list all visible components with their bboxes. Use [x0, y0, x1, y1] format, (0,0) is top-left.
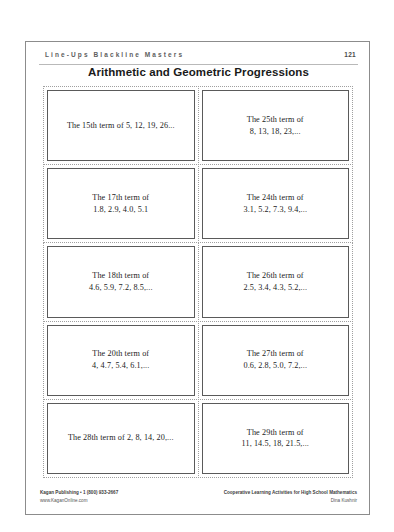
card-line-2: 2.5, 3.4, 4.3, 5.2,...	[243, 283, 307, 292]
card-text: The 18th term of 4.6, 5.9, 7.2, 8.5,...	[83, 270, 159, 294]
card-line-1: The 25th term of	[247, 115, 304, 124]
card-text: The 26th term of 2.5, 3.4, 4.3, 5.2,...	[237, 270, 313, 294]
cut-cell: The 20th term of 4, 4.7, 5.4, 6.1,...	[43, 321, 199, 400]
card-line-2: 4.6, 5.9, 7.2, 8.5,...	[89, 283, 153, 292]
card-line-2: 3.1, 5.2, 7.3, 9.4,...	[243, 205, 307, 214]
cut-cell: The 27th term of 0.6, 2.8, 5.0, 7.2,...	[198, 321, 354, 400]
card-line-1: The 28th term of 2, 8, 14, 20,...	[68, 433, 174, 442]
footer-publisher: Kagan Publishing • 1 (800) 933-2667	[40, 489, 118, 497]
cut-cell: The 15th term of 5, 12, 19, 26...	[43, 86, 199, 165]
progression-card: The 24th term of 3.1, 5.2, 7.3, 9.4,...	[202, 168, 350, 239]
card-grid: The 15th term of 5, 12, 19, 26... The 25…	[44, 87, 353, 478]
progression-card: The 20th term of 4, 4.7, 5.4, 6.1,...	[47, 325, 195, 396]
progression-card: The 25th term of 8, 13, 18, 23,...	[202, 90, 350, 161]
card-line-2: 11, 14.5, 18, 21.5,...	[242, 439, 309, 448]
page-title: Arithmetic and Geometric Progressions	[26, 66, 371, 78]
card-line-1: The 15th term of 5, 12, 19, 26...	[67, 121, 175, 130]
card-line-1: The 17th term of	[92, 193, 149, 202]
cut-cell: The 26th term of 2.5, 3.4, 4.3, 5.2,...	[198, 242, 354, 321]
scanned-worksheet-page: Line-Ups Blackline Masters 121 Arithmeti…	[0, 0, 394, 532]
progression-card: The 18th term of 4.6, 5.9, 7.2, 8.5,...	[47, 246, 195, 317]
page-frame: Line-Ups Blackline Masters 121 Arithmeti…	[25, 41, 370, 515]
card-line-1: The 20th term of	[92, 349, 149, 358]
card-line-1: The 26th term of	[247, 271, 304, 280]
running-head-text: Line-Ups Blackline Masters	[45, 51, 352, 58]
progression-card: The 29th term of 11, 14.5, 18, 21.5,...	[202, 403, 350, 474]
cut-cell: The 24th term of 3.1, 5.2, 7.3, 9.4,...	[198, 164, 354, 243]
card-line-2: 1.8, 2.9, 4.0, 5.1	[93, 205, 148, 214]
card-line-1: The 29th term of	[247, 428, 304, 437]
progression-card: The 17th term of 1.8, 2.9, 4.0, 5.1	[47, 168, 195, 239]
card-line-2: 4, 4.7, 5.4, 6.1,...	[92, 361, 149, 370]
card-line-1: The 18th term of	[92, 271, 149, 280]
footer-author: Dina Kushnir	[224, 497, 357, 505]
progression-card: The 28th term of 2, 8, 14, 20,...	[47, 403, 195, 474]
card-text: The 25th term of 8, 13, 18, 23,...	[241, 114, 310, 138]
progression-card: The 15th term of 5, 12, 19, 26...	[47, 90, 195, 161]
cut-cell: The 25th term of 8, 13, 18, 23,...	[198, 86, 354, 165]
card-text: The 24th term of 3.1, 5.2, 7.3, 9.4,...	[237, 192, 313, 216]
card-line-2: 8, 13, 18, 23,...	[250, 127, 301, 136]
progression-card: The 26th term of 2.5, 3.4, 4.3, 5.2,...	[202, 246, 350, 317]
card-line-1: The 24th term of	[247, 193, 304, 202]
card-text: The 28th term of 2, 8, 14, 20,...	[62, 432, 180, 444]
footer-book-block: Cooperative Learning Activities for High…	[224, 489, 357, 505]
card-line-2: 0.6, 2.8, 5.0, 7.2,...	[243, 361, 307, 370]
card-text: The 15th term of 5, 12, 19, 26...	[61, 120, 181, 132]
cut-cell: The 17th term of 1.8, 2.9, 4.0, 5.1	[43, 164, 199, 243]
page-footer: Kagan Publishing • 1 (800) 933-2667 www.…	[40, 489, 357, 505]
footer-book-title: Cooperative Learning Activities for High…	[224, 489, 357, 497]
card-line-1: The 27th term of	[247, 349, 304, 358]
page-number: 121	[344, 51, 356, 58]
progression-card: The 27th term of 0.6, 2.8, 5.0, 7.2,...	[202, 325, 350, 396]
footer-website: www.KaganOnline.com	[40, 497, 118, 505]
cut-cell: The 29th term of 11, 14.5, 18, 21.5,...	[198, 399, 354, 478]
header-divider	[39, 64, 358, 65]
cut-cell: The 18th term of 4.6, 5.9, 7.2, 8.5,...	[43, 242, 199, 321]
card-text: The 20th term of 4, 4.7, 5.4, 6.1,...	[86, 348, 155, 372]
card-text: The 27th term of 0.6, 2.8, 5.0, 7.2,...	[237, 348, 313, 372]
running-head: Line-Ups Blackline Masters	[45, 51, 352, 63]
card-text: The 17th term of 1.8, 2.9, 4.0, 5.1	[86, 192, 155, 216]
cut-cell: The 28th term of 2, 8, 14, 20,...	[43, 399, 199, 478]
footer-publisher-block: Kagan Publishing • 1 (800) 933-2667 www.…	[40, 489, 118, 505]
card-text: The 29th term of 11, 14.5, 18, 21.5,...	[236, 427, 315, 451]
